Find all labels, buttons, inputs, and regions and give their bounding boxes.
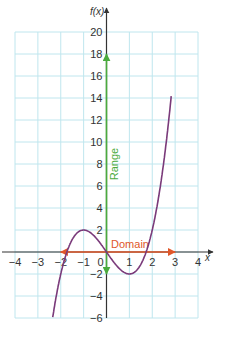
function-chart: −4−3−2−101234−6−4−22468101214161820 Doma… (0, 0, 226, 338)
x-tick-label: 3 (172, 256, 178, 268)
range-label: Range (108, 148, 120, 180)
x-tick-label: 4 (195, 256, 201, 268)
y-tick-label: 10 (90, 136, 102, 148)
x-tick-label: 1 (126, 256, 132, 268)
y-tick-label: −6 (90, 312, 103, 324)
domain-label: Domain (111, 238, 149, 250)
y-tick-label: −4 (90, 290, 103, 302)
y-tick-label: 16 (90, 70, 102, 82)
y-axis-label: f(x) (90, 6, 104, 17)
y-tick-label: 4 (96, 202, 102, 214)
x-tick-label: −4 (9, 256, 22, 268)
y-tick-label: 12 (90, 114, 102, 126)
y-tick-label: 20 (90, 26, 102, 38)
y-tick-label: 6 (96, 180, 102, 192)
x-tick-label: 0 (97, 256, 103, 268)
y-tick-label: 14 (90, 92, 102, 104)
y-tick-label: 18 (90, 48, 102, 60)
y-tick-label: −2 (90, 268, 103, 280)
x-tick-label: 2 (149, 256, 155, 268)
curve (53, 96, 172, 317)
x-axis-label: x (204, 252, 211, 263)
function-curve (53, 96, 172, 317)
x-tick-label: −3 (32, 256, 45, 268)
y-tick-label: 8 (96, 158, 102, 170)
y-tick-label: 2 (96, 224, 102, 236)
x-tick-label: −1 (77, 256, 90, 268)
